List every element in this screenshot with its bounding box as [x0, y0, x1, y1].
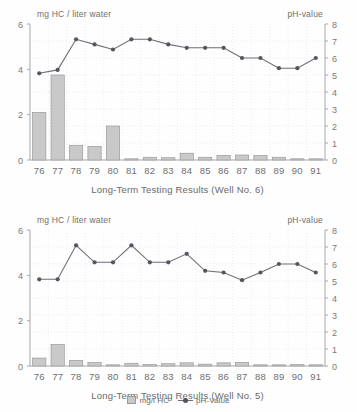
- bar: [199, 157, 212, 160]
- ytick-label-right: 4: [332, 88, 337, 98]
- ytick-label-left: 0: [18, 156, 23, 166]
- ylabel-left: mg HC / liter water: [37, 9, 111, 19]
- bar: [235, 155, 248, 160]
- bar: [272, 157, 285, 160]
- legend-item-line: pH-Value: [178, 396, 230, 405]
- line-data-point: [166, 42, 170, 46]
- ytick-label-right: 7: [332, 243, 337, 253]
- line-data-point: [258, 270, 262, 274]
- xtick-label: 85: [200, 165, 211, 176]
- ytick-label-right: 1: [332, 139, 337, 149]
- ytick-label-right: 8: [332, 20, 337, 30]
- bar: [272, 365, 285, 366]
- bar: [33, 358, 46, 366]
- ylabel-right: pH-value: [287, 215, 323, 225]
- ytick-label-right: 6: [332, 54, 337, 64]
- bar: [125, 159, 138, 160]
- line-data-point: [203, 46, 207, 50]
- ytick-label-right: 7: [332, 37, 337, 47]
- ytick-label-right: 1: [332, 345, 337, 355]
- xtick-label: 78: [71, 165, 82, 176]
- xtick-label: 80: [107, 371, 118, 382]
- legend-item-bar: mg/l HC: [127, 396, 169, 405]
- chart-frame: 0246012345678mg HC / liter waterpH-value…: [18, 9, 337, 195]
- line-data-point: [37, 277, 41, 281]
- ylabel-right: pH-value: [287, 9, 323, 19]
- line-data-point: [74, 243, 78, 247]
- bar: [291, 365, 304, 366]
- xtick-label: 88: [255, 371, 266, 382]
- bar: [254, 365, 267, 366]
- xtick-label: 79: [89, 165, 100, 176]
- ytick-label-left: 6: [18, 226, 23, 236]
- chart-well-5: 0246012345678mg HC / liter waterpH-value…: [0, 208, 357, 408]
- line-data-point: [129, 243, 133, 247]
- bar: [309, 159, 322, 160]
- ytick-label-left: 4: [18, 271, 23, 281]
- ytick-label-right: 5: [332, 277, 337, 287]
- xtick-label: 87: [237, 165, 248, 176]
- xtick-label: 79: [89, 371, 100, 382]
- line-data-point: [185, 46, 189, 50]
- xtick-label: 90: [292, 371, 303, 382]
- line-series: [39, 245, 316, 280]
- ytick-label-left: 2: [18, 316, 23, 326]
- chart-frame: 0246012345678mg HC / liter waterpH-value…: [18, 215, 337, 401]
- ytick-label-right: 0: [332, 362, 337, 372]
- bar: [309, 365, 322, 366]
- bar: [125, 363, 138, 366]
- xtick-label: 78: [71, 371, 82, 382]
- legend-label-bar: mg/l HC: [139, 396, 169, 405]
- bar: [88, 363, 101, 366]
- xtick-label: 90: [292, 165, 303, 176]
- line-data-point: [203, 269, 207, 273]
- chart-well-6: 0246012345678mg HC / liter waterpH-value…: [0, 2, 357, 202]
- ytick-label-right: 2: [332, 328, 337, 338]
- line-data-point: [92, 42, 96, 46]
- bar: [235, 362, 248, 366]
- line-data-point: [277, 66, 281, 70]
- bar: [199, 364, 212, 366]
- xtick-label: 81: [126, 371, 137, 382]
- xtick-label: 84: [181, 165, 192, 176]
- xtick-label: 86: [218, 165, 229, 176]
- line-data-point: [240, 56, 244, 60]
- chart-svg-well-5: 0246012345678mg HC / liter waterpH-value…: [0, 208, 357, 408]
- xtick-label: 88: [255, 165, 266, 176]
- ytick-label-left: 4: [18, 65, 23, 75]
- ytick-label-right: 3: [332, 311, 337, 321]
- xtick-label: 81: [126, 165, 137, 176]
- ytick-label-right: 0: [332, 156, 337, 166]
- xtick-label: 82: [144, 165, 155, 176]
- ytick-label-right: 2: [332, 122, 337, 132]
- line-data-point: [148, 260, 152, 264]
- line-data-point: [148, 37, 152, 41]
- xtick-label: 83: [163, 371, 174, 382]
- xtick-label: 77: [52, 165, 63, 176]
- bar: [51, 75, 64, 160]
- line-data-point: [314, 56, 318, 60]
- line-series: [39, 39, 316, 73]
- line-data-point: [111, 47, 115, 51]
- line-data-point: [56, 277, 60, 281]
- xtick-label: 82: [144, 371, 155, 382]
- ytick-label-left: 6: [18, 20, 23, 30]
- line-data-point: [37, 71, 41, 75]
- bar: [254, 155, 267, 160]
- bar: [217, 155, 230, 160]
- bar: [143, 157, 156, 160]
- bar: [51, 344, 64, 366]
- bar-swatch-icon: [127, 396, 136, 404]
- xtick-label: 89: [273, 165, 284, 176]
- line-data-point: [166, 260, 170, 264]
- bar: [88, 146, 101, 160]
- line-data-point: [240, 278, 244, 282]
- ylabel-left: mg HC / liter water: [37, 215, 111, 225]
- xtick-label: 91: [310, 165, 321, 176]
- bar: [69, 360, 82, 366]
- xtick-label: 76: [34, 371, 45, 382]
- xtick-label: 76: [34, 165, 45, 176]
- xtick-label: 77: [52, 371, 63, 382]
- xtick-label: 84: [181, 371, 192, 382]
- bar: [33, 112, 46, 160]
